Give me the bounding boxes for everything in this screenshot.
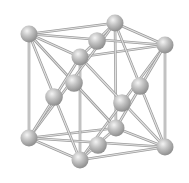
- atom-face-right: [131, 77, 149, 95]
- atom-corner-bottom-back-left: [21, 130, 38, 147]
- atom-face-top: [88, 32, 106, 50]
- atom-corner-top-front-left: [72, 49, 89, 66]
- atom-corner-top-back-right: [107, 15, 124, 32]
- bond-rod-highlight: [29, 23, 115, 34]
- atom-face-front: [113, 94, 131, 112]
- atom-corner-top-back-left: [21, 26, 38, 43]
- atom-corner-bottom-front-right: [157, 139, 174, 156]
- atom-corner-bottom-back-right: [108, 120, 125, 137]
- atom-face-back: [65, 74, 83, 92]
- atom-corner-top-front-right: [157, 37, 174, 54]
- atom-face-left: [45, 88, 63, 106]
- fcc-lattice-diagram: [0, 0, 189, 183]
- atom-face-bottom: [89, 136, 107, 154]
- atom-corner-bottom-front-left: [72, 152, 89, 169]
